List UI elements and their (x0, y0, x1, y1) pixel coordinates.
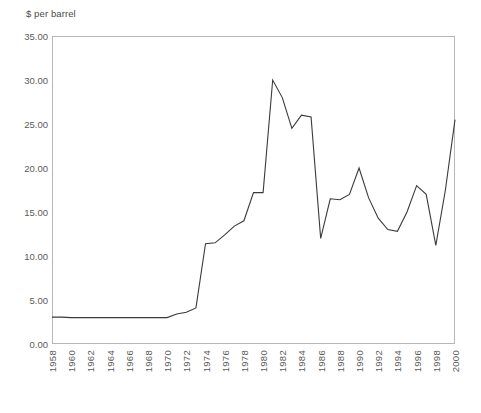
x-axis-tick-label: 1976 (220, 350, 231, 372)
x-axis-tick-label: 1982 (277, 350, 288, 372)
x-axis-tick-label: 1994 (392, 350, 403, 372)
x-axis-tick-label: 1986 (316, 350, 327, 372)
x-axis-tick-label: 1960 (66, 350, 77, 372)
x-axis-tick-label: 1990 (354, 350, 365, 372)
x-axis-tick-label: 1970 (162, 350, 173, 372)
x-axis-tick-label: 1988 (335, 350, 346, 372)
x-axis-tick-label: 1964 (105, 350, 116, 372)
line-series-plot (52, 36, 455, 344)
x-axis-tick-label: 1980 (258, 350, 269, 372)
series-crude-oil-price-line (52, 80, 455, 318)
x-axis-tick-label: 1962 (85, 350, 96, 372)
chart-figure: $ per barrel 35.0030.0025.0020.0015.0010… (0, 0, 481, 413)
x-axis-tick-label: 1972 (181, 350, 192, 372)
x-axis-tick-label: 1958 (47, 350, 58, 372)
x-axis-tick-label: 2000 (450, 350, 461, 372)
x-axis-tick-label: 1978 (239, 350, 250, 372)
x-axis-tick-label: 1974 (201, 350, 212, 372)
x-axis-tick-label: 1998 (431, 350, 442, 372)
x-axis-tick-label: 1996 (412, 350, 423, 372)
x-axis-tick-label: 1984 (296, 350, 307, 372)
x-axis-tick-label: 1992 (373, 350, 384, 372)
x-axis-tick-label: 1966 (124, 350, 135, 372)
x-axis-tick-label: 1968 (143, 350, 154, 372)
